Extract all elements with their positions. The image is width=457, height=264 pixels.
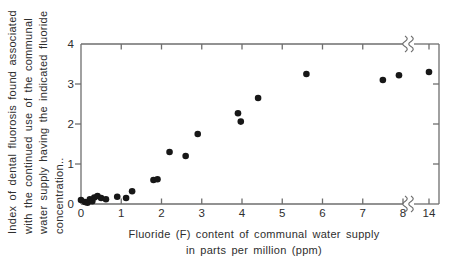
axis-break-mark xyxy=(409,196,414,212)
y-tick-label: 2 xyxy=(68,118,74,130)
x-axis-label-line: in parts per million (ppm) xyxy=(81,242,427,258)
y-tick-label: 0 xyxy=(68,198,74,210)
data-point xyxy=(426,69,433,76)
scatter-plot: 0123456781401234 xyxy=(0,0,457,264)
x-tick-label: 2 xyxy=(158,207,164,219)
x-tick-label: 6 xyxy=(319,207,325,219)
data-point xyxy=(194,131,201,138)
data-point xyxy=(129,188,136,195)
data-point xyxy=(182,153,189,160)
data-point xyxy=(396,72,403,79)
data-point xyxy=(237,118,244,125)
x-tick-label: 3 xyxy=(199,207,205,219)
y-tick-label: 1 xyxy=(68,158,74,170)
y-tick-label: 3 xyxy=(68,78,74,90)
axis-break-mark xyxy=(403,36,408,52)
x-tick-label: 5 xyxy=(279,207,285,219)
data-point xyxy=(235,110,242,117)
x-tick-label: 0 xyxy=(78,207,84,219)
data-point xyxy=(380,77,387,84)
x-tick-label: 14 xyxy=(423,207,436,219)
x-tick-label: 4 xyxy=(239,207,246,219)
axis-break-mark xyxy=(409,36,414,52)
x-axis-label-line: Fluoride (F) content of communal water s… xyxy=(81,226,427,242)
data-point xyxy=(166,149,173,156)
data-point xyxy=(114,194,121,201)
data-point xyxy=(103,196,110,203)
x-axis-label: Fluoride (F) content of communal water s… xyxy=(81,226,427,258)
y-tick-label: 4 xyxy=(68,38,75,50)
data-point xyxy=(123,195,130,202)
x-tick-label: 8 xyxy=(400,207,406,219)
x-tick-label: 7 xyxy=(360,207,366,219)
data-point xyxy=(154,176,161,183)
figure: Index of dental fluorosis found associat… xyxy=(0,0,457,264)
x-tick-label: 1 xyxy=(118,207,124,219)
data-point xyxy=(303,71,310,78)
data-point xyxy=(255,95,262,102)
